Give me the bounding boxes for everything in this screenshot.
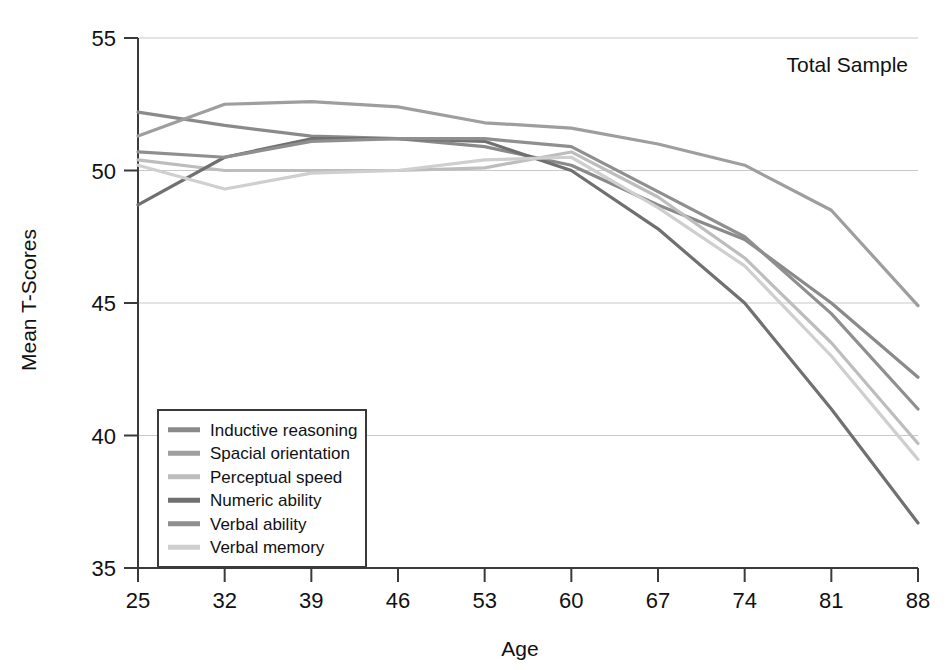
legend-label-perceptual-speed: Perceptual speed: [210, 468, 342, 487]
total-sample-annotation: Total Sample: [787, 53, 908, 76]
line-chart: 5550454035 25323946536067748188 Inductiv…: [0, 0, 951, 670]
y-tick-label-55: 55: [92, 26, 116, 51]
chart-legend: Inductive reasoningSpacial orientationPe…: [158, 410, 366, 567]
x-tick-label-46: 46: [386, 588, 410, 613]
y-axis-tick-labels: 5550454035: [92, 26, 116, 581]
x-tick-label-74: 74: [732, 588, 756, 613]
series-line-spacial-orientation: [138, 102, 918, 306]
x-axis-title: Age: [501, 637, 538, 660]
y-tick-label-50: 50: [92, 159, 116, 184]
x-tick-label-67: 67: [646, 588, 670, 613]
y-tick-label-45: 45: [92, 291, 116, 316]
y-axis-title: Mean T-Scores: [17, 229, 40, 371]
x-tick-label-25: 25: [126, 588, 150, 613]
y-tick-label-35: 35: [92, 556, 116, 581]
legend-label-spacial-orientation: Spacial orientation: [210, 444, 350, 463]
x-tick-label-53: 53: [472, 588, 496, 613]
legend-label-inductive-reasoning: Inductive reasoning: [210, 421, 357, 440]
x-axis-tick-labels: 25323946536067748188: [126, 588, 930, 613]
legend-label-verbal-ability: Verbal ability: [210, 515, 307, 534]
y-tick-label-40: 40: [92, 424, 116, 449]
x-tick-label-81: 81: [819, 588, 843, 613]
gridlines: [138, 38, 918, 436]
legend-label-numeric-ability: Numeric ability: [210, 491, 322, 510]
chart-figure: 5550454035 25323946536067748188 Inductiv…: [0, 0, 951, 670]
x-tick-label-39: 39: [299, 588, 323, 613]
series-line-verbal-ability: [138, 139, 918, 409]
x-tick-label-60: 60: [559, 588, 583, 613]
x-tick-label-32: 32: [212, 588, 236, 613]
x-tick-label-88: 88: [906, 588, 930, 613]
legend-label-verbal-memory: Verbal memory: [210, 538, 325, 557]
